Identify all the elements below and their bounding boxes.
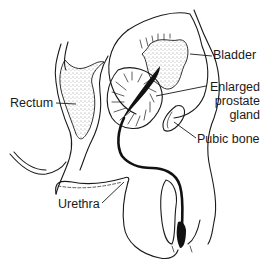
pubic-bone-label: Pubic bone [197,132,260,146]
pubic-bone-leader [174,122,196,138]
prostate-label: Enlarged prostate gland [205,80,260,122]
external-genitalia-shape [123,180,200,259]
rectum-shape [55,42,108,194]
urethra-shape [118,118,186,248]
bladder-label: Bladder [213,48,256,62]
urethra-leader [102,182,124,203]
rectum-label: Rectum [10,96,53,110]
bladder-leader [190,54,212,56]
prostate-shape [107,66,162,128]
urethra-label: Urethra [58,197,100,211]
anatomy-diagram: Rectum Bladder Enlarged prostate gland P… [0,0,267,264]
prostate-label-line2: prostate [205,94,260,108]
prostate-label-line3: gland [205,108,260,122]
prostate-label-line1: Enlarged [205,80,260,94]
